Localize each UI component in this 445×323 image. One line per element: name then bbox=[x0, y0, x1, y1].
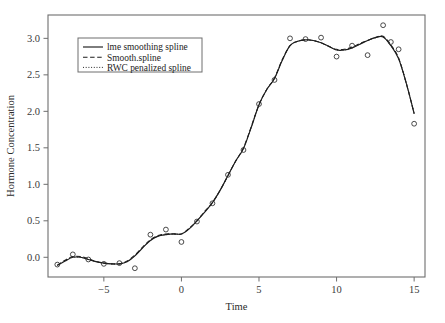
data-point bbox=[132, 266, 137, 271]
x-tick-label: 10 bbox=[331, 284, 342, 295]
x-tick-label: 0 bbox=[179, 284, 184, 295]
legend-label-dotted: RWC penalized spline bbox=[107, 63, 191, 73]
x-axis-title: Time bbox=[226, 301, 248, 312]
chart-canvas: −5051015Time0.00.51.01.52.02.53.0Hormone… bbox=[0, 0, 445, 323]
data-point bbox=[164, 227, 169, 232]
data-point bbox=[412, 121, 417, 126]
x-tick-label: 15 bbox=[409, 284, 420, 295]
y-tick-label: 2.5 bbox=[27, 69, 40, 80]
x-tick-label: 5 bbox=[256, 284, 261, 295]
y-tick-label: 1.5 bbox=[27, 142, 40, 153]
data-point bbox=[148, 232, 153, 237]
y-tick-label: 0.0 bbox=[27, 252, 40, 263]
hormone-concentration-chart: −5051015Time0.00.51.01.52.02.53.0Hormone… bbox=[0, 0, 445, 323]
data-point bbox=[303, 37, 308, 42]
x-tick-label: −5 bbox=[98, 284, 109, 295]
y-axis-title: Hormone Concentration bbox=[5, 94, 16, 197]
data-point bbox=[319, 35, 324, 40]
y-tick-label: 0.5 bbox=[27, 215, 40, 226]
data-point bbox=[365, 53, 370, 58]
legend-label-solid: lme smoothing spline bbox=[107, 42, 188, 52]
y-tick-label: 1.0 bbox=[27, 179, 40, 190]
data-point bbox=[381, 23, 386, 28]
data-point bbox=[396, 47, 401, 52]
y-tick-label: 3.0 bbox=[27, 33, 40, 44]
data-point bbox=[288, 36, 293, 41]
legend-label-dashed: Smooth.spline bbox=[107, 53, 161, 63]
data-point bbox=[179, 240, 184, 245]
y-tick-label: 2.0 bbox=[27, 106, 40, 117]
data-point bbox=[334, 54, 339, 59]
